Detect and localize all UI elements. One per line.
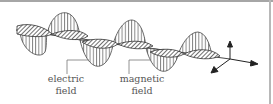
magnetic-field-label: magnetic field [112, 73, 172, 97]
label-leader-lines [67, 60, 150, 74]
electric-field-label-line1: electric [36, 73, 96, 85]
magnetic-field-label-line2: field [112, 85, 172, 97]
electric-field-label: electric field [36, 73, 96, 97]
electric-field-leader [67, 60, 89, 74]
arrow-up-icon [228, 41, 233, 47]
arrow-right-icon [251, 61, 259, 67]
electric-field-label-line2: field [36, 85, 96, 97]
magnetic-field-label-line1: magnetic [112, 73, 172, 85]
diagram-frame: electric field magnetic field [0, 0, 273, 104]
electric-field-wave [20, 13, 212, 72]
arrow-down-left-icon [211, 67, 218, 74]
magnetic-field-leader [129, 60, 150, 74]
